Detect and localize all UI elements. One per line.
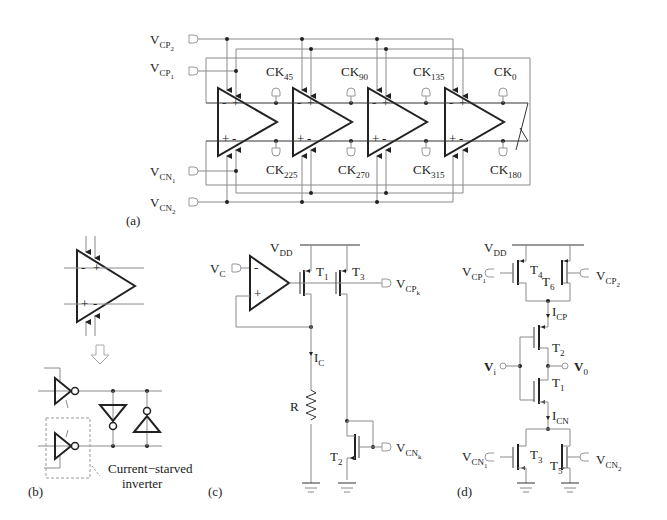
- vc-pin-icon: [232, 264, 241, 272]
- ground-icon: [517, 483, 535, 492]
- label-t1-d: T1: [552, 375, 564, 393]
- label-ck180: CK180: [490, 162, 522, 180]
- ck90-pin-icon: [347, 88, 355, 96]
- panel-d: VDD VCP1 T4 VCP2 T6 ICP T2: [457, 240, 622, 499]
- circuit-figure: VCP2 VCP1 VCN1 VCN2 (a) -: [0, 0, 667, 520]
- svg-text:+: +: [449, 131, 456, 146]
- label-t2-d: T2: [552, 340, 564, 358]
- stage-3: - + + -: [368, 37, 427, 204]
- ck315-pin-icon: [422, 148, 430, 156]
- label-ck90: CK90: [341, 64, 369, 82]
- label-icp: ICP: [552, 304, 567, 322]
- panel-b: - + + - Current−starved inverter (b): [28, 236, 193, 499]
- label-vcp1: VCP1: [150, 60, 174, 81]
- vcn2-pin-icon: [189, 198, 198, 206]
- label-ck135: CK135: [413, 64, 445, 82]
- label-ck315: CK315: [413, 162, 445, 180]
- label-ck270: CK270: [338, 162, 370, 180]
- label-vcn1-d: VCN1: [462, 449, 488, 470]
- label-vdd-d: VDD: [484, 240, 507, 258]
- vcp1-pin-icon-d: [485, 269, 494, 277]
- label-vcn2: VCN2: [150, 195, 176, 216]
- panel-a: VCP2 VCP1 VCN1 VCN2 (a) -: [126, 32, 530, 228]
- panel-c: VDD VC - + T1 T3 VCPk IC R: [208, 240, 422, 499]
- label-t3-d: T3: [530, 447, 543, 465]
- vcp2-pin-icon: [189, 35, 198, 43]
- svg-text:+: +: [81, 296, 88, 311]
- label-t1: T1: [316, 264, 328, 282]
- ck135-pin-icon: [422, 88, 430, 96]
- label-ck45: CK45: [266, 64, 294, 82]
- label-ck0: CK0: [494, 64, 517, 82]
- vcn1-pin-icon: [189, 167, 198, 175]
- svg-text:-: -: [232, 131, 236, 146]
- label-vcnk: VCNk: [396, 440, 422, 461]
- label-t2-c: T2: [330, 449, 342, 467]
- delay-cell-symbol: [77, 250, 135, 322]
- label-icn: ICN: [552, 408, 569, 426]
- vcpk-pin-icon: [382, 279, 391, 287]
- label-r: R: [290, 399, 299, 414]
- ck270-pin-icon: [347, 148, 355, 156]
- stage-2: - + + -: [293, 37, 352, 204]
- annotation-line1: Current−starved: [108, 461, 193, 476]
- svg-text:-: -: [81, 260, 85, 275]
- svg-text:-: -: [382, 131, 386, 146]
- svg-text:-: -: [307, 131, 311, 146]
- transform-arrow-icon: [91, 345, 109, 364]
- label-ck225: CK225: [266, 162, 298, 180]
- ck0-pin-icon: [499, 88, 507, 96]
- label-vcp2: VCP2: [150, 32, 174, 53]
- stage-1: - + + -: [218, 37, 277, 204]
- svg-text:-: -: [254, 260, 258, 275]
- annotation-line2: inverter: [122, 476, 163, 491]
- svg-text:-: -: [93, 296, 97, 311]
- svg-text:+: +: [254, 286, 261, 301]
- svg-text:+: +: [297, 131, 304, 146]
- label-vcp1-d: VCP1: [462, 264, 486, 285]
- svg-text:+: +: [222, 131, 229, 146]
- panel-b-label: (b): [28, 484, 43, 499]
- label-vdd-c: VDD: [270, 240, 293, 258]
- label-vcn1: VCN1: [150, 164, 176, 185]
- label-t3: T3: [352, 264, 365, 282]
- ground-icon: [561, 483, 579, 492]
- panel-c-label: (c): [208, 484, 222, 499]
- label-t4: T4: [530, 262, 543, 280]
- ck45-pin-icon: [272, 88, 280, 96]
- panel-a-label: (a): [126, 213, 140, 228]
- label-vcpk: VCPk: [396, 276, 420, 297]
- vcnk-pin-icon: [382, 443, 391, 451]
- label-vo: V0: [574, 359, 588, 377]
- label-vcn2-d: VCN2: [596, 452, 622, 473]
- label-vc: VC: [210, 261, 225, 279]
- svg-text:+: +: [372, 131, 379, 146]
- svg-text:-: -: [459, 131, 463, 146]
- label-vcp2-d: VCP2: [596, 268, 620, 289]
- ck225-pin-icon: [272, 148, 280, 156]
- label-ic: IC: [314, 350, 324, 368]
- vcn1-pin-icon-d: [485, 453, 494, 461]
- ground-icon: [338, 483, 356, 492]
- panel-d-label: (d): [457, 484, 472, 499]
- ground-icon: [302, 460, 320, 492]
- label-t6: T6: [542, 274, 555, 292]
- svg-text:+: +: [93, 260, 100, 275]
- ck180-pin-icon: [499, 148, 507, 156]
- label-vi: Vi: [484, 359, 496, 377]
- vcn2-pin-icon-d: [580, 453, 589, 461]
- vcp2-pin-icon-d: [580, 269, 589, 277]
- vcp1-pin-icon: [189, 67, 198, 75]
